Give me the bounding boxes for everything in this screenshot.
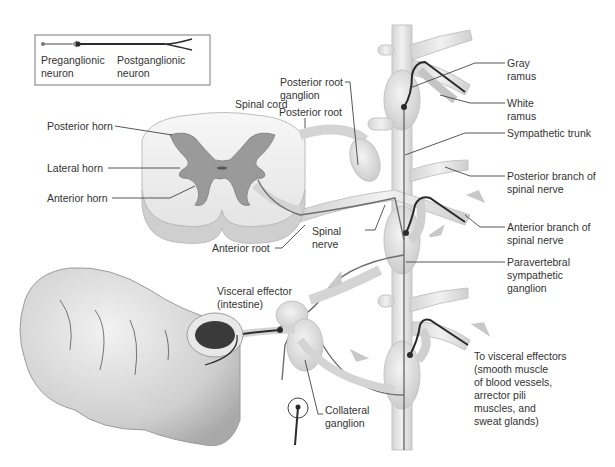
label-spinal-nerve: Spinal nerve [312, 225, 341, 251]
spinal-cord-illustration [142, 113, 386, 244]
arrow-icon [330, 275, 340, 287]
label-posterior-root: Posterior root [279, 106, 342, 119]
neuron-pathways [258, 62, 468, 450]
label-posterior-branch: Posterior branch of spinal nerve [507, 170, 596, 196]
legend-preganglionic-label: Preganglionic neuron [41, 54, 105, 80]
label-gray-ramus: Gray ramus [507, 57, 536, 83]
label-anterior-root: Anterior root [212, 242, 270, 255]
label-posterior-horn: Posterior horn [47, 120, 113, 133]
label-posterior-root-ganglion: Posterior root ganglion [280, 76, 343, 102]
label-lateral-horn: Lateral horn [47, 162, 103, 175]
label-white-ramus: White ramus [507, 97, 536, 123]
intestine-illustration [20, 268, 243, 446]
arrow-icon [430, 228, 442, 236]
arrow-icon [470, 192, 482, 200]
label-sympathetic-trunk: Sympathetic trunk [507, 127, 591, 140]
label-paravertebral-ganglion: Paravertebral sympathetic ganglion [507, 256, 570, 295]
label-anterior-horn: Anterior horn [47, 192, 108, 205]
label-visceral-effector: Visceral effector (intestine) [217, 285, 292, 311]
arrow-icon [353, 352, 365, 360]
lower-nerve-branches [410, 288, 470, 360]
label-to-visceral-effectors: To visceral effectors (smooth muscle of … [474, 350, 567, 428]
label-collateral-ganglion: Collateral ganglion [325, 404, 369, 430]
arrow-icon [475, 324, 487, 333]
label-anterior-branch: Anterior branch of spinal nerve [507, 221, 590, 247]
legend-postganglionic-label: Postganglionic neuron [117, 54, 185, 80]
